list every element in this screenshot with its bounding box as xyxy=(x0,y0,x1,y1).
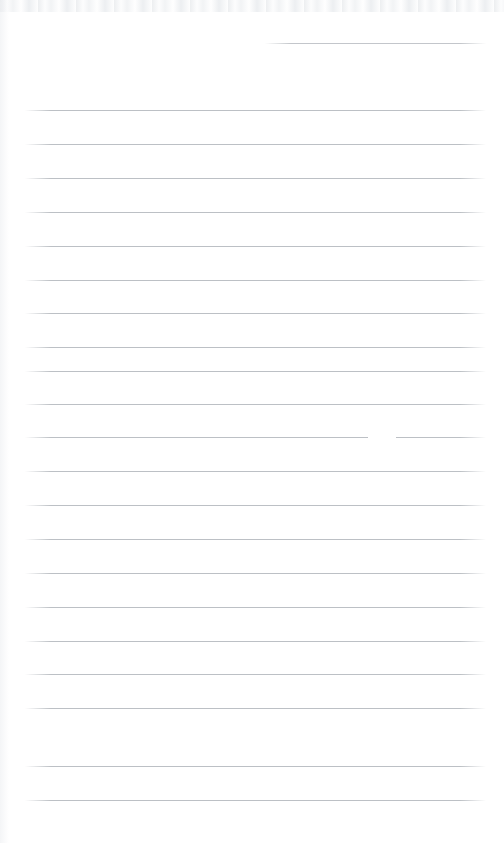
ruled-line xyxy=(25,573,486,574)
ruled-line xyxy=(25,144,486,145)
ruled-line xyxy=(25,178,486,179)
ruled-line-erased-gap xyxy=(368,436,396,439)
scanned-page xyxy=(0,0,504,843)
ruled-line xyxy=(25,471,486,472)
ruled-line xyxy=(25,607,486,608)
ruled-line xyxy=(25,505,486,506)
scan-top-noise-band xyxy=(0,0,504,12)
ruled-line xyxy=(25,708,486,709)
ruled-line xyxy=(25,766,486,767)
ruled-line xyxy=(25,347,486,348)
ruled-line xyxy=(25,280,486,281)
ruled-line xyxy=(25,674,486,675)
ruled-line xyxy=(25,404,486,405)
ruled-line xyxy=(25,800,486,801)
ruled-line-partial xyxy=(265,43,486,44)
ruled-line xyxy=(25,110,486,111)
ruled-line xyxy=(25,212,486,213)
scan-left-edge-shadow xyxy=(0,0,9,843)
ruled-line xyxy=(25,641,486,642)
ruled-line xyxy=(25,539,486,540)
ruled-line xyxy=(25,246,486,247)
ruled-line xyxy=(25,437,486,438)
ruled-line xyxy=(25,371,486,372)
ruled-line xyxy=(25,313,486,314)
